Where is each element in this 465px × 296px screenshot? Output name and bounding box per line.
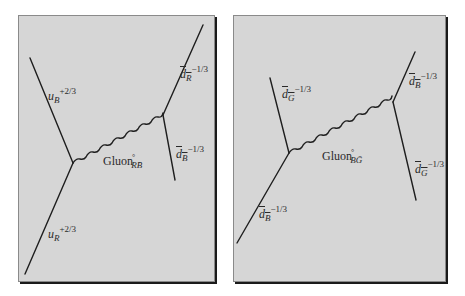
particle-label-left-lower-right: dB−1/3 [176,148,204,160]
gluon-label-right: Gluon°BḠ [322,150,362,162]
gluon-wave-right [289,96,392,153]
particle-label-right-upper-right: dB−1/3 [409,75,437,87]
quark-line-right-lower-left [237,153,289,243]
quark-line-left-lower-right [163,115,175,180]
particle-label-right-upper-left: dG−1/3 [282,88,311,100]
particle-label-left-upper-left: uB+2/3 [48,90,76,102]
particle-label-right-lower-right: dG−1/3 [415,163,444,175]
gluon-label-left: Gluon°RB̄ [103,155,142,167]
particle-label-left-upper-right: dR−1/3 [180,68,208,80]
particle-label-left-lower-left: uR+2/3 [48,228,76,240]
quark-line-left-lower-left [25,163,73,274]
feynman-diagrams [0,0,465,296]
quark-line-left-upper-left [30,58,73,163]
particle-label-right-lower-left: dB−1/3 [259,208,287,220]
quark-line-right-lower-right [393,102,416,200]
